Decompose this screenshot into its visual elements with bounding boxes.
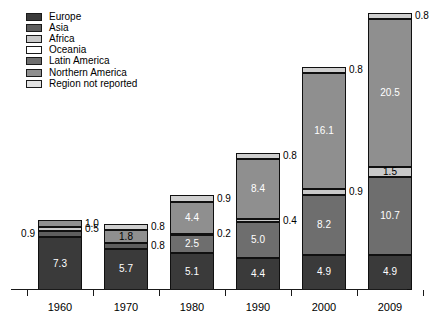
stacked-bar[interactable]: 4.910.71.520.5 xyxy=(368,13,412,290)
bar-segment[interactable]: 20.5 xyxy=(368,19,412,167)
segment-callout-label: 0.8 xyxy=(349,65,363,75)
segment-value-label: 5.0 xyxy=(237,235,279,245)
segment-callout-label: 0.8 xyxy=(415,11,429,21)
segment-value-label: 5.1 xyxy=(171,267,213,277)
segment-callout-label: 0.9 xyxy=(349,187,363,197)
bar-segment[interactable] xyxy=(104,243,148,249)
segment-value-label: 4.9 xyxy=(369,267,411,277)
bar-segment[interactable]: 10.7 xyxy=(368,177,412,254)
bar-segment[interactable]: 2.5 xyxy=(170,235,214,253)
bar-segment[interactable]: 1.5 xyxy=(368,167,412,178)
segment-value-label: 4.4 xyxy=(237,269,279,279)
bar-segment[interactable]: 5.7 xyxy=(104,249,148,290)
bar-segment[interactable]: 4.9 xyxy=(302,255,346,290)
segment-callout-label: 0.8 xyxy=(151,222,165,232)
segment-callout-label: 0.9 xyxy=(10,229,35,239)
segment-value-label: 8.4 xyxy=(237,184,279,194)
bar-segment[interactable]: 4.9 xyxy=(368,255,412,290)
bar-group[interactable]: 4.910.71.520.5 xyxy=(368,12,412,290)
segment-value-label: 8.2 xyxy=(303,220,345,230)
segment-callout-label: 0.2 xyxy=(217,229,231,239)
segment-value-label: 4.4 xyxy=(171,213,213,223)
bar-segment[interactable]: 1.8 xyxy=(104,230,148,243)
x-axis-label: 1980 xyxy=(162,302,222,313)
x-axis-tick xyxy=(291,290,292,296)
segment-callout-label: 0.4 xyxy=(283,216,297,226)
stacked-bar[interactable]: 7.3 xyxy=(38,220,82,290)
x-axis-tick xyxy=(159,290,160,296)
segment-value-label: 1.5 xyxy=(369,167,411,177)
segment-callout-label: 0.9 xyxy=(217,194,231,204)
bar-segment[interactable]: 8.2 xyxy=(302,195,346,254)
bar-segment[interactable]: 16.1 xyxy=(302,73,346,189)
bar-segment[interactable] xyxy=(302,189,346,195)
stacked-bar[interactable]: 5.12.54.4 xyxy=(170,195,214,290)
stacked-bar[interactable]: 4.98.216.1 xyxy=(302,67,346,290)
bar-group[interactable]: 5.71.8 xyxy=(104,12,148,290)
bar-group[interactable]: 7.3 xyxy=(38,12,82,290)
segment-callout-label: 0.8 xyxy=(151,241,165,251)
bar-segment[interactable]: 7.3 xyxy=(38,237,82,290)
stacked-bar[interactable]: 4.45.08.4 xyxy=(236,153,280,290)
segment-value-label: 2.5 xyxy=(171,239,213,249)
bar-segment[interactable]: 4.4 xyxy=(236,258,280,290)
bar-segment[interactable] xyxy=(38,220,82,227)
bar-segment[interactable] xyxy=(104,224,148,230)
segment-callout-label: 1.0 xyxy=(85,219,99,229)
bar-segment[interactable]: 5.0 xyxy=(236,222,280,258)
bar-segment[interactable] xyxy=(302,67,346,73)
bar-segment[interactable]: 4.4 xyxy=(170,202,214,234)
x-axis-tick xyxy=(423,290,424,296)
segment-value-label: 4.9 xyxy=(303,267,345,277)
bar-segment[interactable] xyxy=(368,13,412,19)
segment-value-label: 5.7 xyxy=(105,264,147,274)
bar-segment[interactable] xyxy=(38,227,82,231)
x-axis-label: 1970 xyxy=(96,302,156,313)
x-axis-label: 1990 xyxy=(228,302,288,313)
segment-value-label: 20.5 xyxy=(369,88,411,98)
x-axis-tick xyxy=(357,290,358,296)
bar-segment[interactable] xyxy=(236,153,280,159)
stacked-bar[interactable]: 5.71.8 xyxy=(104,224,148,290)
x-axis-label: 2000 xyxy=(294,302,354,313)
x-axis-tick xyxy=(27,290,28,296)
bar-group[interactable]: 4.45.08.4 xyxy=(236,12,280,290)
x-axis-tick xyxy=(93,290,94,296)
x-axis-label: 2009 xyxy=(360,302,420,313)
segment-value-label: 16.1 xyxy=(303,126,345,136)
x-axis-tick xyxy=(225,290,226,296)
bar-segment[interactable]: 5.1 xyxy=(170,253,214,290)
x-axis-label: 1960 xyxy=(30,302,90,313)
segment-value-label: 10.7 xyxy=(369,211,411,221)
bar-segment[interactable] xyxy=(38,231,82,237)
bar-segment[interactable] xyxy=(170,195,214,201)
segment-value-label: 1.8 xyxy=(105,232,147,242)
bar-group[interactable]: 5.12.54.4 xyxy=(170,12,214,290)
segment-value-label: 7.3 xyxy=(39,259,81,269)
bar-group[interactable]: 4.98.216.1 xyxy=(302,12,346,290)
x-axis-line xyxy=(11,289,407,290)
segment-callout-label: 0.8 xyxy=(283,151,297,161)
bar-segment[interactable]: 8.4 xyxy=(236,159,280,220)
